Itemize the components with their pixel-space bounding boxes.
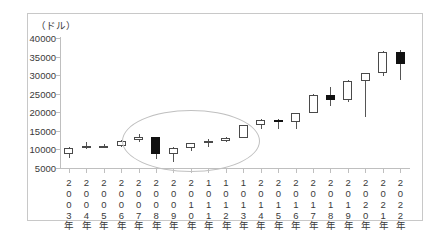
x-tick-label: 2006年: [116, 177, 126, 231]
x-tick-label: 2010年: [186, 177, 196, 231]
y-tick-label: 15000: [30, 125, 56, 136]
x-tick-mark: [173, 169, 174, 173]
x-tick-mark: [261, 169, 262, 173]
candle-body: [326, 95, 335, 100]
x-tick-label: 1011年: [204, 177, 214, 231]
x-tick-label: 2005年: [99, 177, 109, 231]
x-tick-label: 2007年: [134, 177, 144, 231]
y-tick-label: 20000: [30, 107, 56, 118]
x-tick-mark: [156, 169, 157, 173]
candle-body: [134, 137, 143, 140]
candle-body: [378, 52, 387, 73]
x-tick-mark: [208, 169, 209, 173]
plot-area: [60, 38, 409, 168]
x-tick-mark: [104, 169, 105, 173]
x-tick-mark: [121, 169, 122, 173]
x-tick-mark: [313, 169, 314, 173]
x-tick-label: 2014年: [256, 177, 266, 231]
x-tick-mark: [86, 169, 87, 173]
candle-body: [151, 137, 160, 154]
y-tick-mark: [56, 149, 60, 150]
y-tick-label: 35000: [30, 51, 56, 62]
x-tick-mark: [243, 169, 244, 173]
x-tick-label: 2018年: [326, 177, 336, 231]
y-tick-mark: [56, 168, 60, 169]
x-tick-label: 2003年: [64, 177, 74, 231]
y-tick-label: 30000: [30, 70, 56, 81]
candle-body: [274, 120, 283, 122]
y-tick-mark: [56, 112, 60, 113]
x-tick-label: 2020年: [361, 177, 371, 231]
x-tick-label: 2021年: [378, 177, 388, 231]
y-tick-label: 10000: [30, 144, 56, 155]
x-tick-label: 1013年: [238, 177, 248, 231]
x-tick-mark: [365, 169, 366, 173]
candle-body: [82, 146, 91, 148]
candlestick-chart: （ドル） 40000350003000025000200001500010000…: [0, 0, 430, 236]
x-tick-label: 2015年: [273, 177, 283, 231]
x-tick-label: 2016年: [291, 177, 301, 231]
x-tick-label: 2017年: [308, 177, 318, 231]
x-tick-label: 2004年: [81, 177, 91, 231]
candle-body: [221, 138, 230, 141]
candle-body: [309, 95, 318, 113]
candle-body: [239, 125, 248, 138]
x-tick-mark: [139, 169, 140, 173]
x-tick-mark: [383, 169, 384, 173]
x-tick-label: 2022年: [396, 177, 406, 231]
y-tick-label: 40000: [30, 33, 56, 44]
candle-body: [291, 113, 300, 122]
x-tick-mark: [296, 169, 297, 173]
y-tick-mark: [56, 94, 60, 95]
candle-body: [64, 148, 73, 154]
candle-body: [117, 141, 126, 147]
candle-body: [396, 52, 405, 64]
x-tick-mark: [69, 169, 70, 173]
y-tick-mark: [56, 131, 60, 132]
candle-body: [361, 73, 370, 81]
y-tick-mark: [56, 75, 60, 76]
candle-body: [169, 148, 178, 154]
x-tick-label: 2009年: [169, 177, 179, 231]
y-tick-label: 25000: [30, 88, 56, 99]
candle-body: [343, 81, 352, 100]
x-tick-mark: [278, 169, 279, 173]
x-tick-mark: [330, 169, 331, 173]
x-tick-mark: [348, 169, 349, 173]
candle-body: [186, 143, 195, 147]
x-tick-label: 2008年: [151, 177, 161, 231]
x-tick-mark: [191, 169, 192, 173]
x-tick-mark: [226, 169, 227, 173]
y-tick-label: 5000: [35, 163, 56, 174]
candle-body: [99, 146, 108, 148]
candle-body: [256, 120, 265, 125]
x-tick-label: 1012年: [221, 177, 231, 231]
x-tick-mark: [400, 169, 401, 173]
y-tick-mark: [56, 57, 60, 58]
x-axis-line: [60, 168, 410, 169]
y-tick-mark: [56, 38, 60, 39]
y-axis-labels: 400003500030000250002000015000100005000: [0, 0, 56, 236]
x-tick-label: 2019年: [343, 177, 353, 231]
candle-body: [204, 141, 213, 143]
